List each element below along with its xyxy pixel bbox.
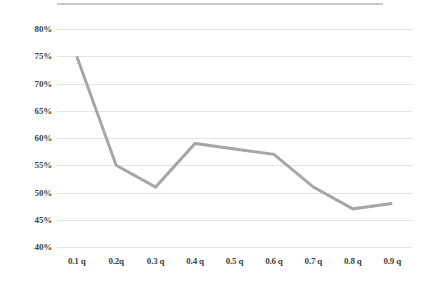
plot-area: 80%75%70%65%60%55%50%45%40% 0.1 q0.2q0.3… <box>0 0 432 286</box>
line-chart: 80%75%70%65%60%55%50%45%40% 0.1 q0.2q0.3… <box>0 0 432 286</box>
series-line-group <box>0 0 432 286</box>
series-line-1 <box>77 56 393 209</box>
